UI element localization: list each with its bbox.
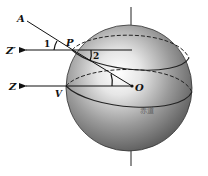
label-Z-prime: Z′	[5, 45, 16, 56]
label-V: V	[55, 89, 63, 99]
label-P: P	[65, 37, 74, 48]
label-A: A	[16, 13, 25, 24]
angle-1-arc	[54, 41, 57, 50]
label-O: O	[135, 82, 144, 93]
label-equator: 赤道	[140, 106, 154, 115]
celestial-sphere-diagram: A P O V Z′ Z 1 2 赤道	[0, 0, 208, 176]
label-angle-2: 2	[93, 51, 99, 61]
label-angle-1: 1	[44, 39, 50, 49]
label-Z: Z	[8, 81, 17, 92]
point-O	[130, 84, 133, 87]
